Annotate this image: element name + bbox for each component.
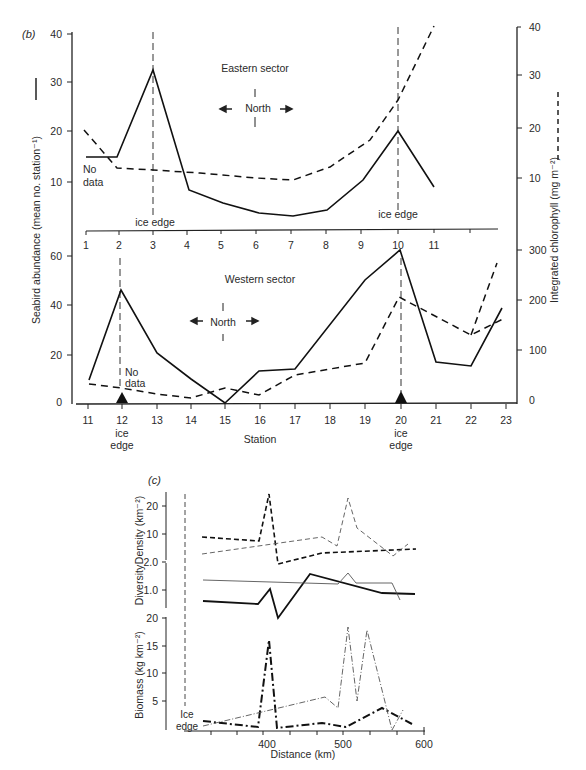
svg-text:10: 10 — [529, 172, 541, 184]
svg-text:23: 23 — [500, 414, 512, 426]
biomass-b-line — [203, 627, 403, 730]
western-ice-edge-label-1b: edge — [110, 439, 134, 451]
eastern-north-label: North — [245, 102, 271, 114]
panel-c-label: (c) — [148, 474, 161, 486]
figure: (b) 40 30 20 10 60 40 20 0 40 30 — [0, 0, 586, 770]
svg-text:4: 4 — [184, 239, 190, 251]
panel-c-y-tick-labels: 20 10 2.0 1.0 20 15 10 5 — [143, 500, 158, 707]
western-seabird-line — [89, 250, 502, 403]
svg-text:13: 13 — [151, 414, 163, 426]
svg-text:20: 20 — [50, 125, 62, 137]
eastern-no-data-line1: No — [83, 163, 97, 175]
svg-text:20: 20 — [395, 414, 407, 426]
diversity-axis-title: Diversity — [133, 564, 145, 605]
eastern-x-tick-labels: 1 2 3 4 5 6 7 8 9 10 11 — [83, 239, 440, 251]
svg-text:0: 0 — [56, 396, 62, 408]
svg-text:10: 10 — [146, 528, 158, 540]
svg-text:7: 7 — [288, 239, 294, 251]
svg-text:2: 2 — [116, 239, 122, 251]
svg-text:100: 100 — [529, 344, 547, 356]
western-ice-edge-label-2b: edge — [389, 439, 413, 451]
svg-text:30: 30 — [529, 69, 541, 81]
arrow-left-icon — [220, 106, 232, 112]
ice-edge-marker-icon — [395, 391, 407, 403]
western-sector-title: Western sector — [225, 273, 296, 285]
svg-text:6: 6 — [253, 239, 259, 251]
svg-text:14: 14 — [185, 414, 197, 426]
panel-c-ice-edge-label-2: edge — [176, 721, 199, 732]
western-chlorophyll-line — [89, 297, 505, 398]
svg-text:19: 19 — [359, 414, 371, 426]
svg-text:21: 21 — [430, 414, 442, 426]
svg-text:5: 5 — [152, 695, 158, 707]
svg-text:40: 40 — [529, 21, 541, 33]
western-x-tick-labels: 11 12 13 14 15 16 17 18 19 20 21 22 23 — [83, 414, 512, 426]
svg-text:200: 200 — [529, 294, 547, 306]
panel-c-y-ticks — [162, 506, 166, 701]
svg-text:1.0: 1.0 — [143, 584, 158, 596]
svg-text:10: 10 — [392, 239, 404, 251]
svg-text:18: 18 — [324, 414, 336, 426]
panel-b-label: (b) — [22, 28, 36, 40]
svg-text:1: 1 — [83, 239, 89, 251]
svg-text:3: 3 — [150, 239, 156, 251]
svg-text:600: 600 — [415, 738, 433, 750]
western-ice-edge-label-1a: ice — [115, 427, 129, 439]
svg-text:60: 60 — [50, 250, 62, 262]
svg-text:2.0: 2.0 — [143, 556, 158, 568]
ice-edge-marker-icon — [116, 392, 128, 403]
svg-text:10: 10 — [146, 667, 158, 679]
western-north-label: North — [210, 316, 236, 328]
western-left-ticks — [67, 256, 72, 355]
biomass-axis-title: Biomass (kg km⁻²) — [133, 631, 145, 719]
western-x-axis — [76, 403, 517, 404]
svg-text:8: 8 — [323, 239, 329, 251]
eastern-ice-edge-label-1: ice edge — [135, 216, 175, 228]
svg-text:22: 22 — [465, 414, 477, 426]
eastern-seabird-line — [86, 70, 434, 216]
arrow-left-icon — [191, 318, 203, 324]
svg-text:10: 10 — [50, 176, 62, 188]
svg-text:9: 9 — [358, 239, 364, 251]
eastern-ice-edge-label-2: ice edge — [378, 208, 418, 220]
svg-text:20: 20 — [146, 500, 158, 512]
svg-text:11: 11 — [429, 239, 440, 251]
panel-c-ice-edge-label-1: Ice — [180, 709, 194, 720]
western-no-data-line2: data — [125, 377, 146, 389]
svg-text:15: 15 — [219, 414, 231, 426]
arrow-right-icon — [246, 318, 258, 324]
western-x-ticks — [88, 404, 506, 409]
svg-text:20: 20 — [50, 349, 62, 361]
biomass-a-line — [203, 640, 412, 728]
svg-text:20: 20 — [146, 612, 158, 624]
eastern-sector-title: Eastern sector — [221, 62, 289, 74]
eastern-left-tick-labels: 40 30 20 10 — [50, 28, 62, 188]
svg-text:5: 5 — [218, 239, 224, 251]
left-axis-title: Seabird abundance (mean no. station⁻¹) — [30, 136, 42, 324]
eastern-x-axis — [86, 229, 498, 231]
svg-text:11: 11 — [83, 414, 94, 426]
right-tick-labels: 40 30 20 10 300 200 100 0 — [529, 21, 547, 406]
station-axis-title: Station — [244, 433, 277, 445]
arrow-right-icon — [280, 106, 292, 112]
eastern-no-data-line2: data — [83, 176, 104, 188]
western-left-tick-labels: 60 40 20 0 — [50, 250, 62, 408]
svg-text:300: 300 — [529, 244, 547, 256]
right-ticks — [517, 75, 522, 350]
svg-text:12: 12 — [116, 414, 128, 426]
density-axis-title: Density (km⁻²) — [133, 496, 145, 564]
svg-text:500: 500 — [334, 738, 352, 750]
eastern-left-ticks — [67, 34, 72, 182]
density-b-line — [202, 498, 408, 556]
svg-text:17: 17 — [289, 414, 301, 426]
svg-text:40: 40 — [50, 299, 62, 311]
svg-text:16: 16 — [254, 414, 266, 426]
svg-text:0: 0 — [529, 394, 535, 406]
density-a-line — [202, 494, 416, 564]
svg-text:40: 40 — [50, 28, 62, 40]
right-axis-title: Integrated chlorophyll (mg m⁻²) — [548, 157, 560, 303]
svg-text:30: 30 — [50, 76, 62, 88]
distance-axis-title: Distance (km) — [271, 748, 336, 760]
western-ice-edge-label-2a: ice — [394, 427, 408, 439]
svg-text:15: 15 — [146, 640, 158, 652]
